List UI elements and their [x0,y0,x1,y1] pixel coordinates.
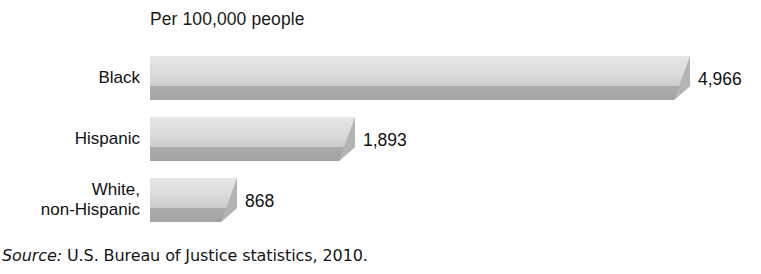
source-note: Source: U.S. Bureau of Justice statistic… [2,246,368,265]
bar-black-shape [150,56,708,100]
value-label-hispanic: 1,893 [363,130,407,151]
value-label-black: 4,966 [698,69,742,90]
category-label-white-non-hispanic: White, non-Hispanic [0,180,140,220]
bar-hispanic-shape [150,117,375,161]
bar-hispanic[interactable] [150,117,375,161]
source-text: U.S. Bureau of Justice statistics, 2010. [62,246,368,265]
bar-row: Black [0,56,761,102]
source-keyword: Source: [2,246,62,265]
bar-white-non-hispanic[interactable] [150,178,257,222]
plot-area: Black [0,0,761,232]
value-label-white-non-hispanic: 868 [245,191,274,212]
bar-black[interactable] [150,56,708,100]
bar-row: White, non-Hispanic [0,178,761,224]
bar-white-non-hispanic-shape [150,178,257,222]
category-label-hispanic: Hispanic [0,129,140,149]
category-label-black: Black [0,68,140,88]
bar-row: Hispanic [0,117,761,163]
bar-chart-figure: Per 100,000 people Black [0,0,761,274]
